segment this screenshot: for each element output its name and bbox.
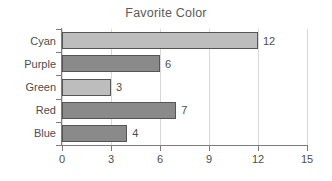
x-axis-tick <box>307 146 308 151</box>
y-axis-tick-label: Green <box>0 81 56 93</box>
bar-chart: Favorite Color CyanPurpleGreenRedBlue 12… <box>0 0 332 181</box>
x-axis-tick <box>160 146 161 151</box>
gridline <box>307 29 308 145</box>
bar <box>62 32 258 49</box>
y-axis-tick-label: Cyan <box>0 35 56 47</box>
bar <box>62 125 127 142</box>
x-axis-tick-label: 9 <box>194 153 224 165</box>
x-axis-tick-label: 6 <box>145 153 175 165</box>
x-axis-tick-label: 0 <box>47 153 77 165</box>
y-axis-tick <box>56 52 62 53</box>
bar-value-label: 6 <box>165 58 171 70</box>
bar-value-label: 4 <box>132 127 138 139</box>
bar <box>62 79 111 96</box>
bar-value-label: 7 <box>181 104 187 116</box>
y-axis-tick <box>56 29 62 30</box>
chart-title: Favorite Color <box>0 6 332 20</box>
bar-value-label: 12 <box>263 35 275 47</box>
x-axis-tick <box>111 146 112 151</box>
x-axis-line <box>61 145 308 146</box>
x-axis-tick-label: 3 <box>96 153 126 165</box>
x-axis-tick <box>209 146 210 151</box>
y-axis-tick-label: Purple <box>0 58 56 70</box>
x-axis-tick <box>258 146 259 151</box>
bar-value-label: 3 <box>116 81 122 93</box>
x-axis-tick-label: 15 <box>292 153 322 165</box>
x-axis-tick-label: 12 <box>243 153 273 165</box>
y-axis-tick <box>56 99 62 100</box>
bar <box>62 55 160 72</box>
y-axis-line <box>61 28 62 146</box>
y-axis-tick <box>56 122 62 123</box>
bar <box>62 102 176 119</box>
y-axis-tick-label: Blue <box>0 127 56 139</box>
gridline <box>258 29 259 145</box>
y-axis-tick <box>56 75 62 76</box>
x-axis-tick <box>62 146 63 151</box>
y-axis-tick-label: Red <box>0 104 56 116</box>
